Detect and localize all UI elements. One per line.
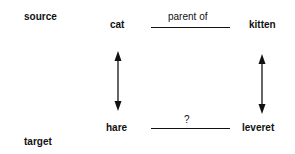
analogy-diagram	[0, 0, 295, 154]
mapping-arrow-left	[115, 51, 122, 111]
mapping-arrow-right	[259, 54, 266, 114]
